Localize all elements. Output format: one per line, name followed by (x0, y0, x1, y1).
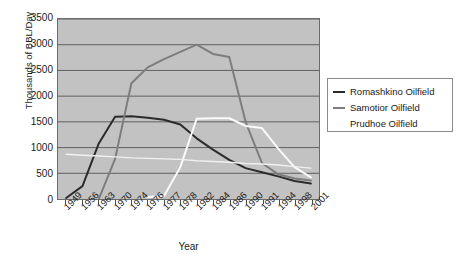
legend-swatch (333, 107, 345, 109)
y-tick-label: 500 (8, 169, 53, 179)
legend-item: Samotior Oilfield (333, 100, 448, 116)
y-tick-label: 2000 (8, 91, 53, 101)
y-tick-label: 2500 (8, 65, 53, 75)
plot-svg (58, 19, 319, 199)
chart-container: Thousands of BBL/Day 0500100015002000250… (0, 0, 459, 262)
plot-area (57, 18, 320, 200)
series-line (66, 116, 311, 198)
legend-label: Prudhoe Oilfield (350, 119, 418, 129)
x-axis-tick-labels: 1949195619631970197419761977197819821984… (0, 203, 459, 237)
x-axis-title: Year (57, 241, 320, 252)
legend-item: Romashkino Oilfield (333, 84, 448, 100)
legend: Romashkino OilfieldSamotior OilfieldPrud… (327, 78, 453, 132)
legend-swatch (333, 91, 345, 93)
y-tick-label: 1500 (8, 117, 53, 127)
legend-label: Samotior Oilfield (350, 103, 420, 113)
y-tick-label: 3500 (8, 13, 53, 23)
series-line (66, 154, 311, 168)
legend-item: Prudhoe Oilfield (333, 116, 448, 132)
y-tick-label: 3000 (8, 39, 53, 49)
y-tick-label: 1000 (8, 143, 53, 153)
series-line (148, 118, 311, 197)
legend-label: Romashkino Oilfield (350, 87, 434, 97)
legend-swatch (333, 123, 345, 125)
